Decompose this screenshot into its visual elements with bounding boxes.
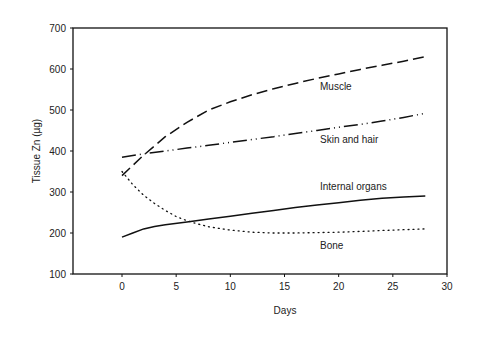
x-tick-label: 5 [173, 281, 179, 292]
x-tick-label: 20 [333, 281, 345, 292]
x-tick-label: 10 [225, 281, 237, 292]
series-line-internal-organs [122, 196, 425, 237]
label-muscle: Muscle [320, 81, 352, 92]
x-tick-label: 15 [279, 281, 291, 292]
y-tick-label: 700 [49, 23, 66, 34]
plot-frame [73, 28, 447, 274]
x-axis: 051015202530 [119, 274, 453, 292]
x-tick-label: 30 [441, 281, 453, 292]
y-tick-label: 200 [49, 228, 66, 239]
x-tick-label: 0 [119, 281, 125, 292]
x-tick-label: 25 [387, 281, 399, 292]
series-line-muscle [122, 57, 425, 176]
y-axis: 100200300400500600700 [49, 23, 73, 280]
y-tick-label: 100 [49, 269, 66, 280]
label-internal-organs: Internal organs [320, 181, 387, 192]
series-line-skin-and-hair [122, 113, 425, 157]
chart: 100200300400500600700 051015202530 Days … [0, 0, 481, 337]
y-axis-title: Tissue Zn (µg) [31, 119, 42, 183]
label-skin-and-hair: Skin and hair [320, 134, 379, 145]
y-tick-label: 600 [49, 64, 66, 75]
y-tick-label: 300 [49, 187, 66, 198]
y-tick-label: 500 [49, 105, 66, 116]
series-group [122, 57, 425, 237]
y-tick-label: 400 [49, 146, 66, 157]
x-axis-title: Days [274, 305, 297, 316]
label-bone: Bone [320, 240, 344, 251]
